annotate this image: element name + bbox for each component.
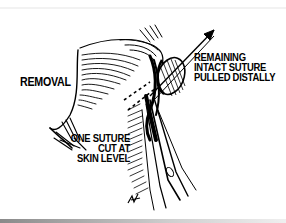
skin-fold-icon xyxy=(50,25,163,194)
label-remaining-intact-suture: REMAINING INTACT SUTURE PULLED DISTALLY xyxy=(194,52,275,82)
label-removal: REMOVAL xyxy=(20,77,71,87)
label-line: PULLED DISTALLY xyxy=(194,72,275,82)
bottom-edge xyxy=(0,219,286,223)
label-line: SKIN LEVEL xyxy=(58,153,130,163)
label-removal-text: REMOVAL xyxy=(20,77,71,87)
illustration-canvas: REMOVAL REMAINING INTACT SUTURE PULLED D… xyxy=(0,0,286,223)
scissors-icon xyxy=(142,96,196,210)
label-one-suture-cut: ONE SUTURE CUT AT SKIN LEVEL xyxy=(58,133,130,163)
illustration-drawing xyxy=(0,0,286,223)
artist-signature xyxy=(128,194,140,203)
